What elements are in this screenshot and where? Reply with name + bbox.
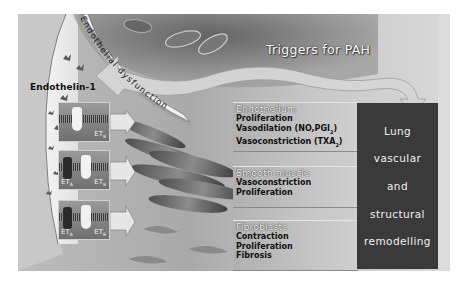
outcome-line: remodelling bbox=[364, 235, 431, 247]
svg-text:Endothelial dysfunction: Endothelial dysfunction bbox=[78, 14, 170, 111]
lung-remodelling-outcome-box: Lung vascular and structural remodelling bbox=[357, 103, 438, 269]
receptor-et-b-icon bbox=[81, 205, 91, 229]
receptor-et-b-icon bbox=[81, 155, 91, 179]
endothelium-effects-box: Endothelium Proliferation Vasodilation (… bbox=[233, 102, 358, 152]
outcome-line: structural bbox=[370, 208, 425, 220]
effect-line: Contraction bbox=[236, 232, 358, 242]
fibroblasts-title: Fibroblasts bbox=[236, 222, 358, 232]
triggers-for-pah-label: Triggers for PAH bbox=[266, 42, 370, 57]
effect-line: Proliferation bbox=[236, 114, 358, 124]
receptor-panel-endothelium: ETB bbox=[58, 102, 110, 142]
outcome-line: and bbox=[387, 180, 408, 192]
effect-line: Proliferation bbox=[236, 188, 358, 198]
effect-line: Fibrosis bbox=[236, 251, 358, 261]
smooth-muscle-title: Smooth muscle bbox=[236, 168, 358, 178]
outcome-line: vascular bbox=[374, 152, 421, 164]
effect-line: Proliferation bbox=[236, 242, 358, 252]
receptor-et-b-icon bbox=[72, 107, 82, 131]
receptor-et-a-icon bbox=[63, 207, 72, 229]
receptor-label-et-b: ETB bbox=[94, 228, 106, 237]
effect-line: Vasoconstriction bbox=[236, 178, 358, 188]
effect-line: Vasoconstriction (TXA2) bbox=[236, 137, 358, 150]
receptor-label-et-b: ETB bbox=[94, 178, 106, 187]
endothelin-1-label: Endothelin-1 bbox=[30, 82, 96, 92]
effect-line: Vasodilation (NO,PGI2) bbox=[236, 124, 358, 137]
outcome-line: Lung bbox=[384, 125, 411, 137]
receptor-label-et-a: ETA bbox=[61, 228, 73, 237]
endothelium-title: Endothelium bbox=[236, 104, 358, 114]
membrane bbox=[59, 115, 109, 123]
receptor-panel-fibroblast: ETA ETB bbox=[58, 200, 110, 240]
receptor-label-et-a: ETA bbox=[61, 178, 73, 187]
fibroblasts-effects-box: Fibroblasts Contraction Proliferation Fi… bbox=[233, 220, 358, 271]
receptor-panel-smooth-muscle: ETA ETB bbox=[58, 150, 110, 190]
receptor-et-a-icon bbox=[63, 157, 72, 179]
figure-right-margin bbox=[438, 14, 450, 271]
pah-pathophysiology-figure: Endothelial dysfunction Endothelin-1 Tri… bbox=[18, 14, 450, 271]
receptor-label-et-b: ETB bbox=[94, 130, 106, 139]
smooth-muscle-effects-box: Smooth muscle Vasoconstriction Prolifera… bbox=[233, 166, 358, 208]
